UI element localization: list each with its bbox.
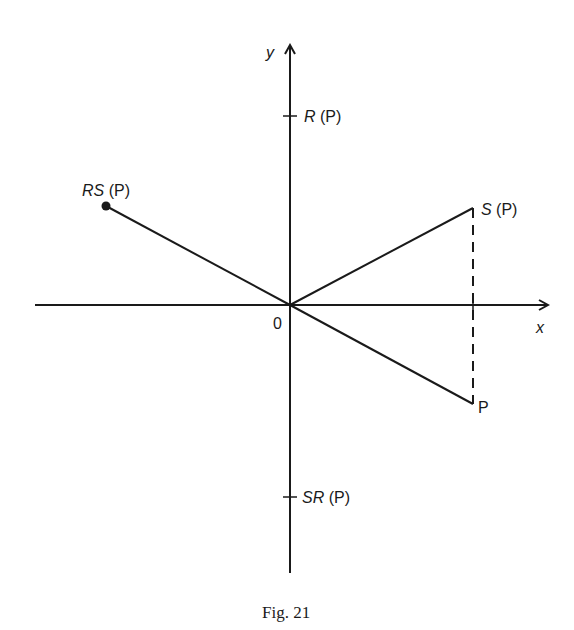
segment-origin-P: [290, 305, 473, 404]
label-SR-name: SR: [302, 489, 325, 506]
x-axis-label: x: [535, 319, 545, 336]
point-RS-dot: [102, 202, 111, 211]
figure-caption: Fig. 21: [262, 603, 310, 622]
label-R-name: R: [304, 108, 316, 125]
label-S-name: S: [481, 201, 492, 218]
label-SR: SR (P): [302, 489, 350, 506]
label-R-suffix: (P): [316, 108, 342, 125]
label-S-suffix: (P): [492, 201, 518, 218]
origin-label: 0: [273, 315, 282, 332]
segment-origin-RS: [106, 206, 290, 305]
label-RS: RS (P): [82, 182, 130, 199]
label-R: R (P): [304, 108, 341, 125]
label-P: P: [478, 399, 489, 416]
figure-canvas: y x 0 R (P) SR (P) RS (P) S (P) P Fig. 2…: [0, 0, 574, 630]
label-SR-suffix: (P): [324, 489, 350, 506]
label-S: S (P): [481, 201, 517, 218]
segment-origin-S: [290, 208, 473, 305]
label-RS-suffix: (P): [104, 182, 130, 199]
y-axis-label: y: [265, 44, 275, 61]
label-RS-name: RS: [82, 182, 105, 199]
